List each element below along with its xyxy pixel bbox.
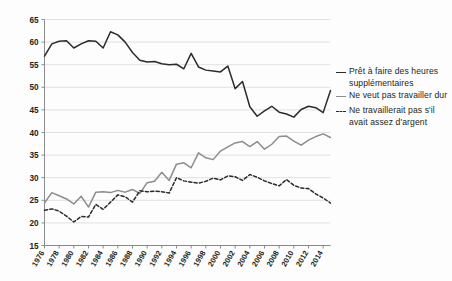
- series-line-2: [45, 175, 331, 222]
- legend-label-0: Prêt à faire des heures supplémentaires: [349, 66, 452, 89]
- series-line-1: [45, 134, 331, 207]
- x-tick-label: 2010: [279, 249, 295, 268]
- x-tick-label: 1976: [30, 249, 46, 268]
- x-tick-label: 1986: [103, 249, 119, 268]
- chart-legend: Prêt à faire des heures supplémentaires …: [336, 66, 452, 129]
- legend-line-icon-2: [336, 105, 346, 119]
- legend-item-0[interactable]: Prêt à faire des heures supplémentaires: [336, 66, 452, 89]
- x-tick-label: 2008: [265, 249, 281, 268]
- legend-item-2[interactable]: Ne travaillerait pas s'il avait assez d'…: [336, 105, 452, 128]
- x-tick-label: 2002: [221, 249, 237, 268]
- x-tick-label: 1978: [45, 249, 61, 268]
- y-tick-label: 60: [29, 38, 39, 47]
- x-tick-label: 1980: [59, 249, 75, 268]
- y-tick-label: 30: [29, 174, 39, 183]
- x-tick-label: 1992: [147, 249, 163, 268]
- y-tick-label: 65: [29, 16, 39, 25]
- legend-label-2: Ne travaillerait pas s'il avait assez d'…: [349, 105, 452, 128]
- x-tick-label: 1994: [162, 248, 179, 268]
- chart-plot-area: 6560555045403530252015197619781980198219…: [0, 0, 452, 281]
- x-tick-label: 2012: [294, 249, 310, 268]
- y-tick-label: 55: [29, 61, 39, 70]
- series-line-0: [45, 32, 331, 117]
- legend-line-icon-0: [336, 66, 346, 80]
- y-tick-label: 25: [29, 196, 39, 205]
- line-chart: 6560555045403530252015197619781980198219…: [0, 0, 452, 281]
- x-tick-label: 1982: [74, 249, 90, 268]
- legend-label-1: Ne veut pas travailler dur: [349, 90, 447, 102]
- x-tick-label: 2000: [206, 249, 222, 268]
- y-tick-label: 45: [29, 106, 39, 115]
- legend-line-icon-1: [336, 90, 346, 104]
- x-tick-label: 2014: [309, 248, 326, 268]
- x-tick-label: 2006: [250, 249, 266, 268]
- x-tick-label: 1990: [133, 249, 149, 268]
- x-tick-label: 1998: [191, 249, 207, 268]
- x-tick-label: 2004: [235, 248, 252, 268]
- x-tick-label: 1984: [89, 248, 106, 268]
- y-tick-label: 40: [29, 129, 39, 138]
- legend-item-1[interactable]: Ne veut pas travailler dur: [336, 90, 452, 104]
- x-tick-label: 1988: [118, 249, 134, 268]
- x-tick-label: 1996: [177, 249, 193, 268]
- y-tick-label: 50: [29, 83, 39, 92]
- y-tick-label: 20: [29, 219, 39, 228]
- y-tick-label: 35: [29, 151, 39, 160]
